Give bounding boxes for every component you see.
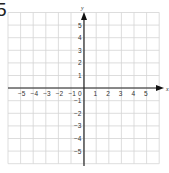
x-axis-arrow-icon — [156, 85, 164, 91]
x-tick-label: −2 — [56, 90, 64, 97]
y-tick-label: 1 — [78, 72, 82, 79]
y-axis-arrow-icon — [81, 12, 87, 20]
x-tick-label: −5 — [18, 90, 26, 97]
x-tick-labels: −5−4−3−2−1012345 — [18, 90, 148, 97]
y-tick-label: −2 — [74, 110, 82, 117]
y-tick-label: 2 — [78, 59, 82, 66]
x-tick-label: 3 — [119, 90, 123, 97]
y-tick-label: 4 — [78, 34, 82, 41]
y-tick-label: 3 — [78, 47, 82, 54]
x-tick-label: −3 — [43, 90, 51, 97]
y-tick-label: 5 — [78, 22, 82, 29]
x-tick-label: 0 — [78, 90, 82, 97]
x-axis-label: x — [165, 86, 169, 92]
x-tick-label: −1 — [68, 90, 76, 97]
y-tick-label: −5 — [74, 148, 82, 155]
coordinate-grid: x y −5−4−3−2−1012345 54321−1−2−3−4−5 — [0, 0, 169, 173]
x-tick-label: 4 — [131, 90, 135, 97]
y-tick-label: −3 — [74, 122, 82, 129]
x-tick-label: 5 — [144, 90, 148, 97]
x-tick-label: 2 — [106, 90, 110, 97]
x-tick-label: 1 — [94, 90, 98, 97]
y-axis — [81, 12, 87, 166]
x-tick-label: −4 — [31, 90, 39, 97]
y-tick-label: −1 — [74, 97, 82, 104]
y-axis-label: y — [80, 5, 84, 11]
y-tick-label: −4 — [74, 135, 82, 142]
